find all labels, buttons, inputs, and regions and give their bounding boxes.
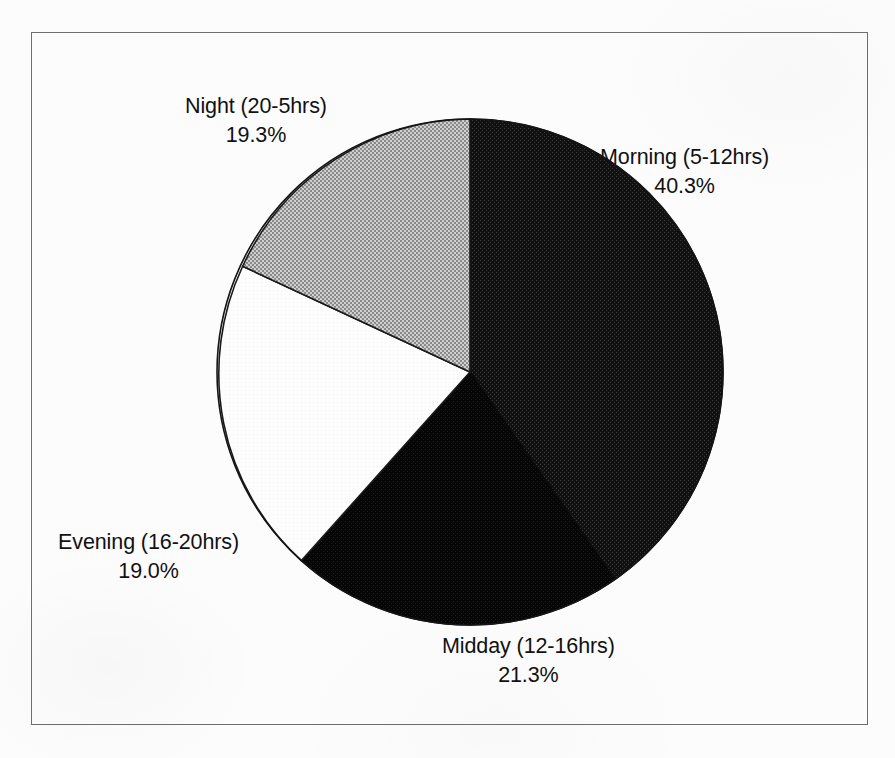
- pie-label-midday-percent: 21.3%: [442, 661, 615, 690]
- pie-label-midday: Midday (12-16hrs) 21.3%: [442, 632, 615, 690]
- pie-label-evening: Evening (16-20hrs) 19.0%: [58, 528, 239, 586]
- pie-label-evening-percent: 19.0%: [58, 557, 239, 586]
- pie-label-morning: Morning (5-12hrs) 40.3%: [600, 143, 769, 201]
- pie-label-night-percent: 19.3%: [185, 121, 327, 150]
- pie-label-night: Night (20-5hrs) 19.3%: [185, 92, 327, 150]
- pie-label-night-name: Night (20-5hrs): [185, 94, 327, 118]
- pie-label-morning-percent: 40.3%: [600, 172, 769, 201]
- pie-label-midday-name: Midday (12-16hrs): [442, 634, 615, 658]
- pie-label-evening-name: Evening (16-20hrs): [58, 530, 239, 554]
- pie-label-morning-name: Morning (5-12hrs): [600, 145, 769, 169]
